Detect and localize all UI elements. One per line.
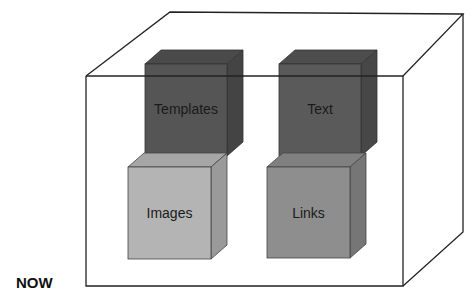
cube-label-images: Images [128, 205, 211, 221]
cube-label-templates: Templates [145, 101, 227, 117]
cube-label-text: Text [279, 101, 361, 117]
diagram-canvas [0, 0, 472, 302]
diagram-caption: NOW [16, 274, 53, 291]
cube-label-links: Links [267, 205, 350, 221]
